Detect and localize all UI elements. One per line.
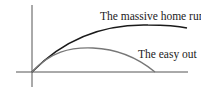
easy-out-curve	[32, 48, 155, 72]
home-run-label: The massive home run	[100, 11, 201, 23]
easy-out-label: The easy out	[138, 49, 197, 61]
